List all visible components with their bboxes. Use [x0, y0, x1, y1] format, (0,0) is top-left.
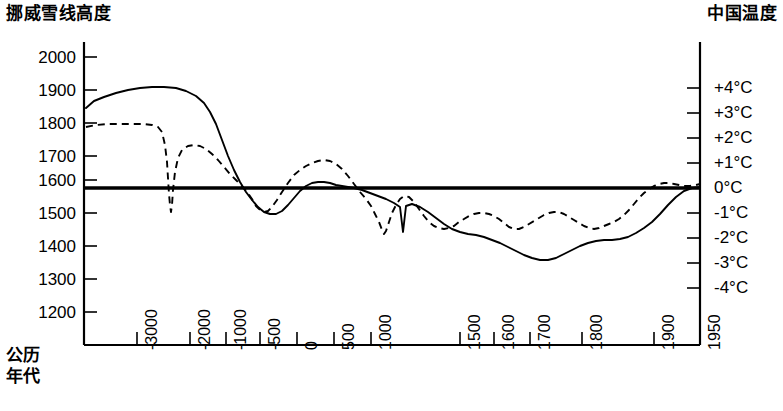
x-axis-caption-line-1: 公历: [6, 346, 40, 367]
right-tick-label-0: +4°C: [714, 79, 783, 96]
left-tick-label-1600: 1600: [14, 172, 76, 189]
right-tick-label-3: +1°C: [714, 154, 783, 171]
right-tick-label-5: -1°C: [714, 204, 783, 221]
x-tick-label--500: -500: [267, 318, 283, 350]
right-tick-label-4: 0°C: [714, 179, 783, 196]
x-tick-label-1700: 1700: [537, 314, 553, 350]
x-tick-label-1900: 1900: [661, 314, 677, 350]
right-tick-label-8: -4°C: [714, 279, 783, 296]
x-tick-label-1000: 1000: [378, 314, 394, 350]
x-tick-label-500: 500: [341, 323, 357, 350]
x-axis-caption-line-2: 年代: [6, 367, 40, 388]
x-tick-label-1600: 1600: [501, 314, 517, 350]
series-temperature-dashed: [86, 124, 700, 234]
x-tick-label--2000: -2000: [197, 309, 213, 350]
left-tick-label-1900: 1900: [14, 82, 76, 99]
right-tick-label-7: -3°C: [714, 254, 783, 271]
right-tick-label-6: -2°C: [714, 229, 783, 246]
x-tick-label--1000: -1000: [233, 309, 249, 350]
right-tick-label-2: +2°C: [714, 129, 783, 146]
x-tick-label-0: 0: [304, 341, 320, 350]
x-tick-label-1500: 1500: [467, 314, 483, 350]
left-tick-label-1800: 1800: [14, 115, 76, 132]
x-tick-label-1950: 1950: [707, 314, 723, 350]
x-tick-label-1800: 1800: [589, 314, 605, 350]
left-tick-label-1700: 1700: [14, 148, 76, 165]
left-tick-label-1200: 1200: [14, 304, 76, 321]
x-tick-label--3000: -3000: [144, 309, 160, 350]
left-tick-label-2000: 2000: [14, 49, 76, 66]
series-snowline-solid: [86, 87, 700, 260]
right-tick-label-1: +3°C: [714, 104, 783, 121]
left-tick-label-1500: 1500: [14, 205, 76, 222]
left-tick-label-1300: 1300: [14, 271, 76, 288]
left-tick-label-1400: 1400: [14, 238, 76, 255]
chart-container: 挪威雪线高度 中国温度 2000190018001700160015001400…: [0, 0, 783, 411]
x-axis-caption: 公历 年代: [6, 346, 40, 387]
